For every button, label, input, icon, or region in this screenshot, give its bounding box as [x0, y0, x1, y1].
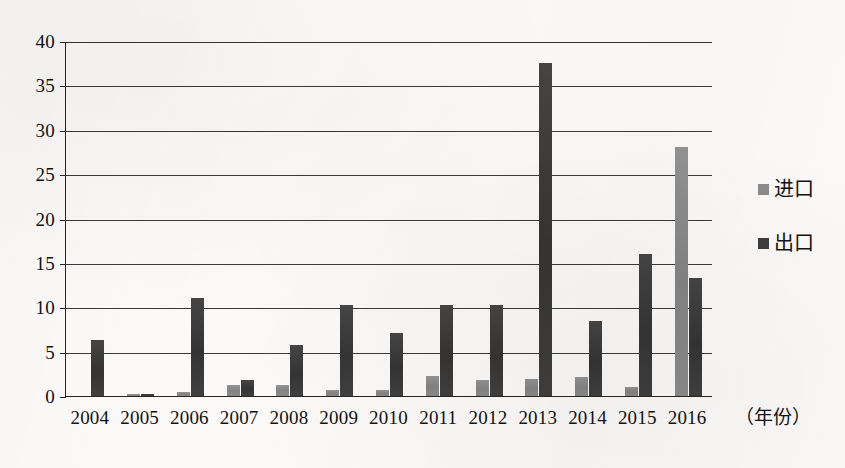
bar-group	[514, 42, 564, 396]
bar-export	[440, 305, 453, 396]
x-axis-tick-label: 2010	[364, 407, 414, 429]
bar-import	[625, 387, 638, 396]
bar-import	[575, 377, 588, 396]
y-axis-tick-label: 0	[15, 387, 55, 406]
bar-export	[241, 380, 254, 396]
x-axis-tick-label: 2012	[463, 407, 513, 429]
y-axis-tick-label: 30	[15, 121, 55, 140]
bar-group	[663, 42, 713, 396]
y-axis-tick-label: 5	[15, 343, 55, 362]
x-axis-tick-label: 2014	[563, 407, 613, 429]
bar-import	[426, 376, 439, 396]
x-axis-tick-label: 2011	[413, 407, 463, 429]
bar-group	[166, 42, 216, 396]
bar-group	[215, 42, 265, 396]
y-axis-tick-label: 40	[15, 32, 55, 51]
bar-export	[490, 305, 503, 396]
legend-swatch-import	[758, 184, 769, 195]
bar-group	[265, 42, 315, 396]
legend-entry-export: 出口	[758, 230, 838, 256]
bar-group	[116, 42, 166, 396]
chart-legend: 进口 出口	[758, 176, 838, 284]
bar-group	[315, 42, 365, 396]
bar-import	[376, 390, 389, 396]
bar-group	[613, 42, 663, 396]
bar-chart-figure: 0510152025303540 20042005200620072008200…	[0, 0, 845, 468]
bar-import	[276, 385, 289, 396]
x-axis-title: （年份）	[735, 407, 811, 429]
bar-export	[589, 321, 602, 396]
x-axis-tick-label: 2004	[65, 407, 115, 429]
bar-group	[414, 42, 464, 396]
x-axis-tick-label: 2005	[115, 407, 165, 429]
y-axis-tick-label: 20	[15, 210, 55, 229]
bar-export	[191, 298, 204, 396]
x-axis-tick-label: 2016	[662, 407, 712, 429]
bar-export	[639, 254, 652, 396]
x-axis-tick-label: 2007	[214, 407, 264, 429]
bar-import	[675, 147, 688, 396]
y-axis-tick-label: 35	[15, 76, 55, 95]
x-axis-tick-label: 2008	[264, 407, 314, 429]
legend-swatch-export	[758, 238, 769, 249]
bar-import	[476, 380, 489, 396]
bar-import	[326, 390, 339, 396]
bar-group	[365, 42, 415, 396]
x-axis-tick-label: 2009	[314, 407, 364, 429]
bar-group	[464, 42, 514, 396]
bar-export	[91, 340, 104, 396]
bar-export	[390, 333, 403, 396]
y-axis-tick	[60, 397, 66, 398]
bar-export	[539, 63, 552, 396]
x-axis-tick-label: 2006	[165, 407, 215, 429]
bar-import	[127, 394, 140, 396]
x-axis-tick-label: 2015	[612, 407, 662, 429]
bar-import	[525, 379, 538, 396]
bar-export	[340, 305, 353, 396]
bar-export	[141, 394, 154, 396]
bar-import	[177, 392, 190, 396]
x-axis-tick-label: 2013	[513, 407, 563, 429]
bar-export	[689, 278, 702, 396]
y-axis-tick-label: 10	[15, 298, 55, 317]
y-axis-tick-label: 25	[15, 165, 55, 184]
legend-entry-import: 进口	[758, 176, 838, 202]
bar-group	[66, 42, 116, 396]
legend-label-export: 出口	[774, 232, 814, 254]
bar-group	[564, 42, 614, 396]
y-axis-tick-label: 15	[15, 254, 55, 273]
bar-export	[290, 345, 303, 396]
plot-area	[65, 42, 712, 397]
bar-import	[227, 385, 240, 396]
legend-label-import: 进口	[774, 178, 814, 200]
